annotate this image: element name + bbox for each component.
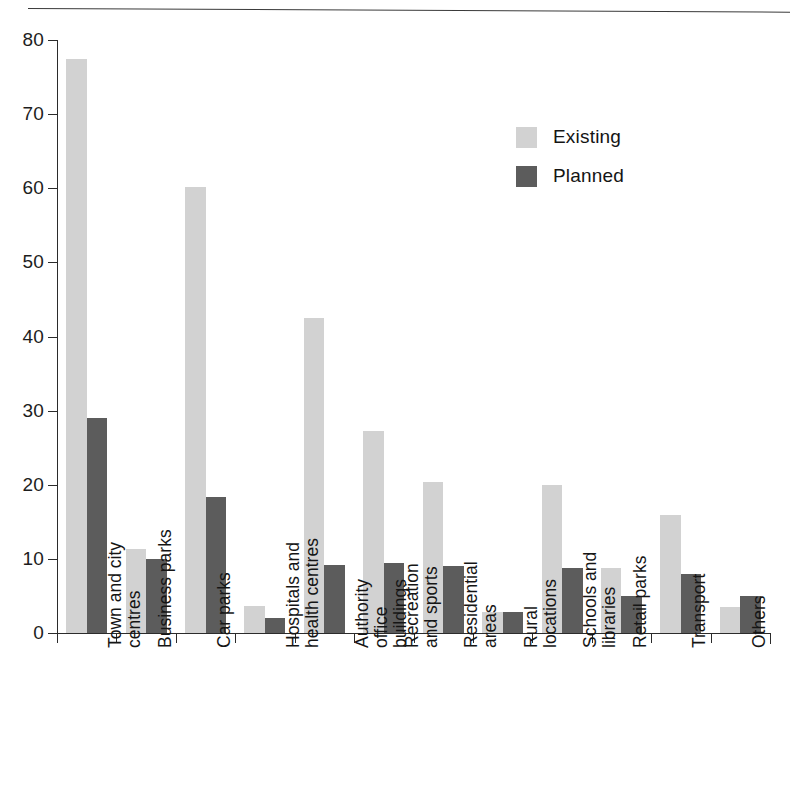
bar-existing-10 (660, 515, 681, 633)
y-tick-label: 20 (22, 474, 44, 496)
chart-legend: Existing Planned (516, 126, 624, 204)
y-tick-mark (48, 114, 57, 115)
y-tick-label: 60 (22, 177, 44, 199)
legend-swatch-planned (516, 166, 537, 187)
y-tick-label: 50 (22, 251, 44, 273)
bar-chart-figure: 01020304050607080 Existing Planned Town … (0, 0, 800, 793)
bar-existing-0 (66, 59, 87, 633)
x-category-label-6: Residentialareas (462, 561, 500, 648)
legend-item-existing: Existing (516, 126, 624, 148)
x-category-label-11: Others (750, 595, 769, 648)
x-category-label-10: Transport (690, 574, 709, 648)
legend-label-existing: Existing (553, 126, 621, 148)
x-tick-mark (57, 633, 58, 643)
y-tick-mark (48, 188, 57, 189)
y-tick-label: 10 (22, 548, 44, 570)
x-tick-mark (770, 633, 771, 643)
y-tick-mark (48, 411, 57, 412)
y-tick-mark (48, 633, 57, 634)
x-category-label-2: Car parks (215, 572, 234, 648)
bar-existing-11 (720, 607, 741, 633)
x-tick-mark (651, 633, 652, 643)
x-category-label-1: Business parks (156, 529, 175, 648)
x-category-label-5: Recreationand sports (403, 563, 441, 648)
y-tick-mark (48, 337, 57, 338)
x-category-label-0: Town and citycentres (106, 542, 144, 648)
x-tick-mark (711, 633, 712, 643)
bar-existing-3 (244, 606, 265, 633)
legend-swatch-existing (516, 127, 537, 148)
bar-existing-2 (185, 187, 206, 633)
y-tick-label: 80 (22, 29, 44, 51)
x-category-label-7: Rurallocations (522, 579, 560, 648)
bar-planned-4 (324, 565, 345, 633)
x-category-label-9: Retail parks (631, 556, 650, 648)
y-tick-label: 0 (33, 622, 44, 644)
legend-label-planned: Planned (553, 165, 624, 187)
x-category-label-8: Schools andlibraries (581, 552, 619, 648)
y-tick-mark (48, 40, 57, 41)
x-category-label-3: Hospitals andhealth centres (284, 538, 322, 648)
y-tick-label: 40 (22, 326, 44, 348)
y-tick-mark (48, 262, 57, 263)
legend-item-planned: Planned (516, 165, 624, 187)
y-tick-mark (48, 559, 57, 560)
x-tick-mark (176, 633, 177, 643)
page-divider-rule (28, 8, 790, 13)
y-tick-label: 70 (22, 103, 44, 125)
x-tick-mark (235, 633, 236, 643)
y-tick-mark (48, 485, 57, 486)
y-tick-label: 30 (22, 400, 44, 422)
